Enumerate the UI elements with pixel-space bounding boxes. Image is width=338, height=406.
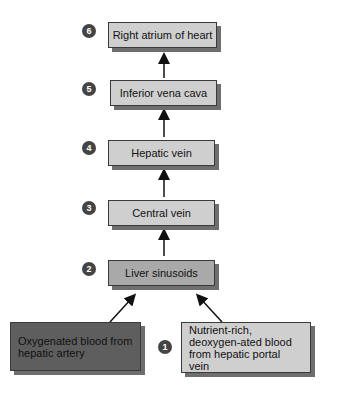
central-vein-label: Central vein [132, 207, 191, 219]
inferior-vena-cava-label: Inferior vena cava [120, 87, 207, 99]
arrow-artery-to-sinusoids [110, 298, 132, 322]
hepatic-vein-box: Hepatic vein [108, 140, 215, 166]
liver-sinusoids-label: Liver sinusoids [125, 267, 198, 279]
step-badge-4: 4 [82, 141, 96, 155]
step-badge-6: 6 [82, 24, 96, 38]
liver-sinusoids-box: Liver sinusoids [108, 260, 215, 286]
step-badge-5: 5 [82, 82, 96, 96]
hepatic-vein-label: Hepatic vein [131, 147, 192, 159]
right-atrium-label: Right atrium of heart [113, 29, 213, 41]
step-badge-2: 2 [82, 262, 96, 276]
hepatic-portal-vein-label: Nutrient-rich, deoxygen-ated blood from … [189, 324, 303, 372]
step-badge-1: 1 [158, 340, 172, 354]
hepatic-artery-label: Oxygenated blood from hepatic artery [18, 335, 133, 359]
inferior-vena-cava-box: Inferior vena cava [110, 80, 217, 106]
hepatic-artery-box: Oxygenated blood from hepatic artery [10, 322, 141, 371]
central-vein-box: Central vein [108, 200, 215, 226]
arrow-portal-to-sinusoids [200, 298, 222, 322]
right-atrium-box: Right atrium of heart [108, 22, 217, 48]
hepatic-portal-vein-box: Nutrient-rich, deoxygen-ated blood from … [181, 322, 311, 373]
step-badge-3: 3 [82, 201, 96, 215]
